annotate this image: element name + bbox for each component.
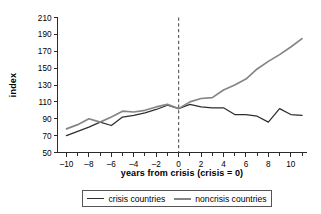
y-tick-label: 170 — [38, 47, 52, 56]
chart-figure: index 507090110130150170190210 –10–8–6–4… — [0, 0, 321, 214]
chart-legend: crisis countriesnoncrisis countries — [82, 190, 272, 207]
y-tick-label: 50 — [42, 149, 52, 158]
y-tick-label: 130 — [38, 81, 52, 90]
legend-entry: crisis countries — [87, 194, 165, 204]
y-tick-label: 150 — [38, 64, 52, 73]
data-series — [66, 39, 302, 136]
y-tick-label: 70 — [42, 132, 52, 141]
legend-entry: noncrisis countries — [174, 194, 266, 204]
plot-area: 507090110130150170190210 –10–8–6–4–20246… — [0, 0, 321, 214]
y-tick-label: 110 — [38, 98, 51, 107]
y-tick-label: 190 — [38, 30, 52, 39]
series-line-noncrisis-countries — [66, 39, 302, 129]
legend-label: crisis countries — [108, 194, 165, 204]
legend-label: noncrisis countries — [195, 194, 266, 204]
series-line-crisis-countries — [66, 104, 302, 135]
y-tick-label: 90 — [42, 115, 52, 124]
y-axis: 507090110130150170190210 — [38, 14, 58, 158]
legend-swatch-noncrisis — [174, 198, 191, 200]
y-tick-label: 210 — [38, 14, 52, 23]
x-axis-title: years from crisis (crisis = 0) — [57, 168, 307, 178]
legend-swatch-crisis — [87, 198, 104, 199]
x-axis: –10–8–6–4–20246810 — [58, 153, 307, 169]
